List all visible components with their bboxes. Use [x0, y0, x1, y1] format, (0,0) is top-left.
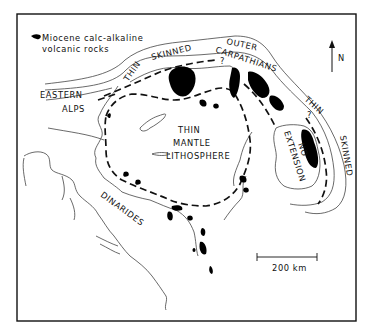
label-alps: ALPS: [62, 104, 85, 114]
label-lithosphere: LITHOSPHERE: [166, 151, 230, 161]
label-thin-right: THIN: [302, 93, 326, 116]
apuseni-boundary: [224, 132, 252, 220]
volcanic-legend-icon: [31, 34, 41, 39]
lake-balaton: [140, 114, 166, 131]
label-skinned-top: SKINNED: [150, 42, 193, 62]
basin-western-margin: [95, 86, 198, 256]
label-skinned-right: SKINNED: [338, 135, 355, 178]
legend-line1: Miocene calc-alkaline: [42, 33, 143, 43]
tectonic-map: Miocene calc-alkaline volcanic rocks N 2…: [0, 0, 370, 332]
legend-line2: volcanic rocks: [42, 44, 109, 54]
north-label: N: [338, 53, 345, 63]
label-thin-center: THIN: [177, 125, 200, 135]
label-question-2: ?: [307, 110, 312, 120]
adriatic-coast: [24, 152, 167, 310]
north-arrow-icon: [329, 40, 335, 72]
label-question-1: ?: [220, 56, 225, 66]
scale-label: 200 km: [272, 263, 307, 273]
label-dinarides: DINARIDES: [99, 190, 146, 228]
label-eastern: EASTERN: [40, 90, 83, 100]
dalmatian-islands: [62, 176, 120, 254]
scale-bar: [257, 253, 317, 261]
volcanic-rocks: [107, 66, 318, 274]
italy-coast: [23, 128, 104, 186]
label-mantle: MANTLE: [173, 138, 211, 148]
map-frame: [17, 14, 356, 321]
